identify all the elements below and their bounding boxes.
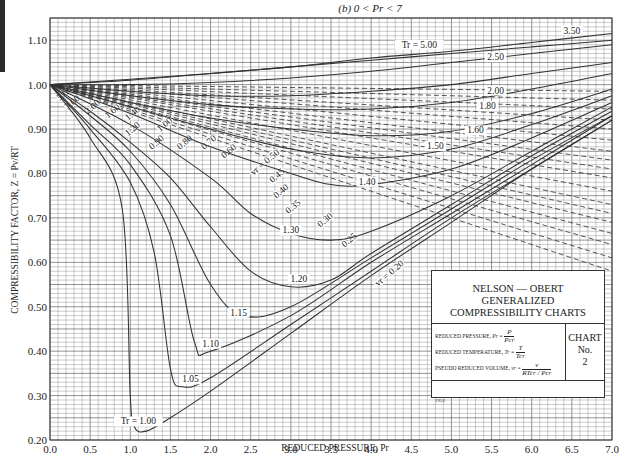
y-tick-label: 0.40 <box>28 345 48 357</box>
fraction: PPcr <box>504 329 514 344</box>
y-tick-label: 0.80 <box>28 167 48 179</box>
x-tick-label: 6.5 <box>565 443 579 455</box>
isotherm-label: 3.50 <box>564 26 581 36</box>
vr-label: 0.80 <box>175 133 194 152</box>
isotherm-label: 1.50 <box>427 141 444 151</box>
title-line: GENERALIZED <box>432 295 604 307</box>
x-tick-label: 5.5 <box>485 443 499 455</box>
chart-number: CHART No. 2 <box>566 324 604 380</box>
y-tick-label: 0.20 <box>28 434 48 446</box>
y-tick-label: 0.50 <box>28 301 48 313</box>
isotherm-label: 1.10 <box>202 339 219 349</box>
y-tick-label: 0.70 <box>28 212 48 224</box>
y-tick-label: 1.10 <box>28 34 48 46</box>
vr-label: 0.25 <box>340 231 359 250</box>
chart-info-box: NELSON — OBERT GENERALIZED COMPRESSIBILI… <box>431 270 605 398</box>
chart-info-title: NELSON — OBERT GENERALIZED COMPRESSIBILI… <box>432 271 604 324</box>
x-tick-label: 2.5 <box>244 443 258 455</box>
isotherm-label: Tr = 5.00 <box>402 40 438 50</box>
isotherm-label: 1.60 <box>467 125 484 135</box>
x-tick-label: 7.0 <box>605 443 619 455</box>
chart-year: 1953 <box>432 381 604 403</box>
isotherm-label: 2.00 <box>487 86 504 96</box>
title-line: NELSON — OBERT <box>432 283 604 295</box>
definition-row: PSEUDO REDUCED VOLUME, vr = vRTcr / Pcr <box>435 360 562 376</box>
x-axis-label: REDUCED PRESSURE, Pr <box>281 443 389 453</box>
y-tick-label: 0.30 <box>28 390 48 402</box>
chart-title: (b) 0 < Pr < 7 <box>338 2 402 15</box>
y-axis-ticks: 0.200.300.400.500.600.700.800.901.001.10 <box>28 34 48 446</box>
isotherm-label: 1.20 <box>291 274 308 284</box>
isotherm-label: 1.30 <box>283 225 300 235</box>
definition-row: REDUCED TEMPERATURE, Tr = TTcr <box>435 344 562 360</box>
definition-row: REDUCED PRESSURE, Pr = PPcr <box>435 328 562 344</box>
x-tick-label: 5.0 <box>445 443 459 455</box>
fraction: TTcr <box>516 345 525 360</box>
x-tick-label: 4.5 <box>404 443 418 455</box>
definitions: REDUCED PRESSURE, Pr = PPcr REDUCED TEMP… <box>432 324 566 380</box>
isotherm-label: 1.05 <box>182 374 199 384</box>
y-tick-label: 1.00 <box>28 79 48 91</box>
isotherm-label: 1.40 <box>359 177 376 187</box>
y-axis-label: COMPRESSIBILITY FACTOR, Z = Pv/RT <box>10 146 20 314</box>
isotherm-label: 1.15 <box>230 308 247 318</box>
x-tick-label: 2.0 <box>204 443 218 455</box>
vr-label: 0.40 <box>271 182 290 201</box>
isotherm-label: Tr = 1.00 <box>121 416 157 426</box>
title-line: COMPRESSIBILITY CHARTS <box>432 307 604 319</box>
isotherm-label: 1.80 <box>479 101 496 111</box>
isotherm-label: 2.50 <box>487 52 504 62</box>
x-tick-label: 0.5 <box>83 443 97 455</box>
x-tick-label: 6.0 <box>525 443 539 455</box>
vr-label: 0.90 <box>147 133 166 152</box>
y-tick-label: 0.90 <box>28 123 48 135</box>
fraction: vRTcr / Pcr <box>522 362 551 377</box>
x-tick-label: 1.5 <box>164 443 178 455</box>
x-tick-label: 1.0 <box>123 443 137 455</box>
y-tick-label: 0.60 <box>28 256 48 268</box>
